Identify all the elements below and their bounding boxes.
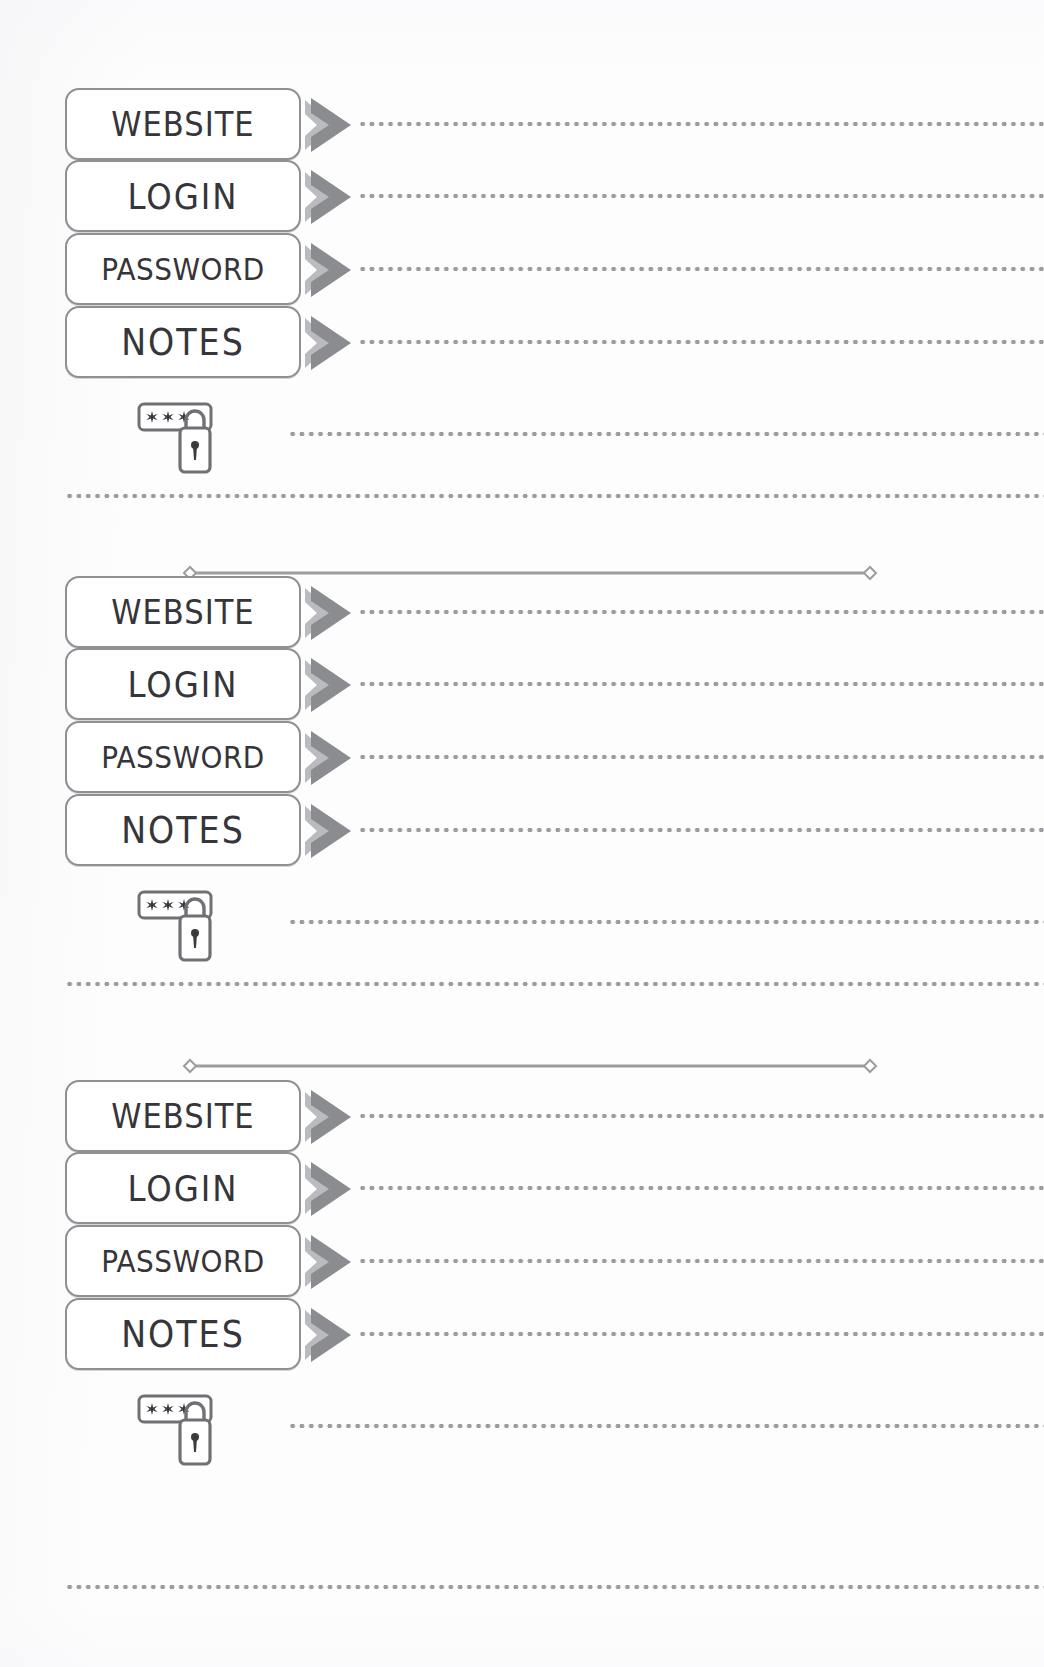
label-box-login[interactable]: LOGIN: [65, 648, 301, 720]
label-box-password[interactable]: PASSWORD: [65, 1225, 301, 1297]
label-text-login: LOGIN: [67, 1168, 299, 1209]
write-line-website[interactable]: [358, 609, 1044, 615]
chevron-right-icon: [303, 656, 355, 714]
label-text-login: LOGIN: [67, 176, 299, 217]
write-line-website[interactable]: [358, 121, 1044, 127]
label-text-password: PASSWORD: [67, 739, 299, 775]
write-line-password[interactable]: [358, 266, 1044, 272]
label-box-website[interactable]: WEBSITE: [65, 88, 301, 160]
chevron-right-icon: [303, 1233, 355, 1291]
label-box-password[interactable]: PASSWORD: [65, 233, 301, 305]
label-box-login[interactable]: LOGIN: [65, 160, 301, 232]
write-line-login[interactable]: [358, 1185, 1044, 1191]
write-line-password[interactable]: [358, 754, 1044, 760]
write-line-login[interactable]: [358, 681, 1044, 687]
chevron-right-icon: [303, 241, 355, 299]
chevron-right-icon: [303, 729, 355, 787]
chevron-right-icon: [303, 314, 355, 372]
label-text-website: WEBSITE: [67, 592, 299, 632]
write-line-password[interactable]: [358, 1258, 1044, 1264]
label-box-notes[interactable]: NOTES: [65, 1298, 301, 1370]
chevron-right-icon: [303, 1160, 355, 1218]
chevron-right-icon: [303, 802, 355, 860]
password-padlock-icon: [136, 886, 232, 964]
write-line-footer[interactable]: [65, 493, 1044, 499]
write-line-notes[interactable]: [358, 1331, 1044, 1337]
section-divider: [176, 1057, 884, 1075]
write-line-footer[interactable]: [65, 981, 1044, 987]
password-padlock-icon: [136, 1390, 232, 1468]
label-text-website: WEBSITE: [67, 104, 299, 144]
label-text-password: PASSWORD: [67, 251, 299, 287]
label-text-notes: NOTES: [67, 1313, 299, 1356]
write-line-website[interactable]: [358, 1113, 1044, 1119]
write-line-extra[interactable]: [288, 1423, 1044, 1429]
chevron-right-icon: [303, 1306, 355, 1364]
label-box-website[interactable]: WEBSITE: [65, 1080, 301, 1152]
label-box-login[interactable]: LOGIN: [65, 1152, 301, 1224]
label-box-notes[interactable]: NOTES: [65, 794, 301, 866]
chevron-right-icon: [303, 96, 355, 154]
label-box-notes[interactable]: NOTES: [65, 306, 301, 378]
write-line-extra[interactable]: [288, 919, 1044, 925]
write-line-footer[interactable]: [65, 1584, 1044, 1590]
label-box-password[interactable]: PASSWORD: [65, 721, 301, 793]
write-line-extra[interactable]: [288, 431, 1044, 437]
chevron-right-icon: [303, 168, 355, 226]
chevron-right-icon: [303, 584, 355, 642]
write-line-login[interactable]: [358, 193, 1044, 199]
label-text-login: LOGIN: [67, 664, 299, 705]
label-text-password: PASSWORD: [67, 1243, 299, 1279]
write-line-notes[interactable]: [358, 339, 1044, 345]
label-box-website[interactable]: WEBSITE: [65, 576, 301, 648]
chevron-right-icon: [303, 1088, 355, 1146]
password-organizer-page: WEBSITE LOGIN: [0, 0, 1044, 1667]
label-text-notes: NOTES: [67, 809, 299, 852]
password-padlock-icon: [136, 398, 232, 476]
write-line-notes[interactable]: [358, 827, 1044, 833]
label-text-notes: NOTES: [67, 321, 299, 364]
label-text-website: WEBSITE: [67, 1096, 299, 1136]
